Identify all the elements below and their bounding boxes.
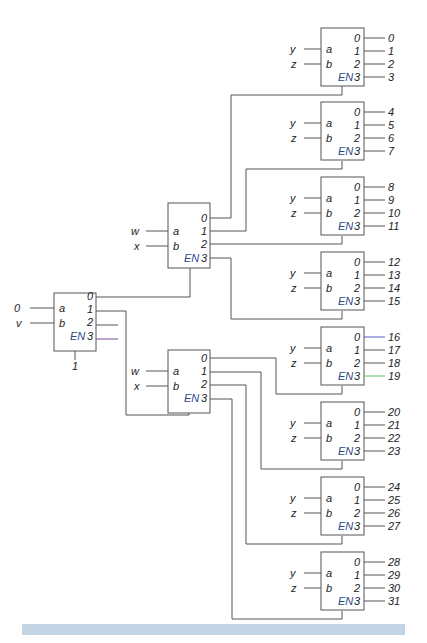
- pin-0-label: 0: [354, 256, 361, 268]
- output-line-label: 19: [388, 370, 400, 382]
- pin-a-label: a: [326, 117, 332, 129]
- pin-b-label: b: [173, 380, 179, 392]
- pin-a-label: a: [326, 492, 332, 504]
- pin-0-label: 0: [354, 331, 361, 343]
- leaf-input-b-signal: z: [290, 357, 297, 369]
- output-line-label: 23: [387, 445, 401, 457]
- leaf-decoder: yzab04152637EN: [289, 102, 395, 160]
- output-line-label: 13: [388, 269, 401, 281]
- leaf-input-a-signal: y: [289, 417, 297, 429]
- pin-a-label: a: [326, 567, 332, 579]
- output-line-label: 3: [388, 71, 395, 83]
- pin-en-label: EN: [184, 252, 199, 264]
- pin-a-label: a: [326, 417, 332, 429]
- pin-2-label: 2: [86, 316, 93, 328]
- output-line-label: 9: [388, 194, 394, 206]
- output-line-label: 14: [388, 282, 400, 294]
- pin-1-label: 1: [354, 269, 360, 281]
- pin-0-label: 0: [354, 481, 361, 493]
- output-line-label: 7: [388, 145, 395, 157]
- pin-a-label: a: [173, 225, 179, 237]
- output-line-label: 1: [388, 45, 394, 57]
- pin-en-label: EN: [338, 595, 353, 607]
- output-line-label: 11: [388, 220, 399, 232]
- pin-en-label: EN: [338, 145, 353, 157]
- pin-a-label: a: [326, 342, 332, 354]
- output-line-label: 27: [387, 520, 401, 532]
- pin-en-label: EN: [338, 295, 353, 307]
- pin-en-label: EN: [338, 520, 353, 532]
- leaf-decoder: yzab0819210311EN: [289, 177, 401, 235]
- pin-1-label: 1: [354, 45, 360, 57]
- output-line-label: 15: [388, 295, 401, 307]
- output-line-label: 21: [387, 419, 400, 431]
- pin-b-label: b: [326, 132, 332, 144]
- pin-2-label: 2: [353, 282, 360, 294]
- bottom-bar: [22, 624, 405, 635]
- mid-input-a-signal: w: [131, 225, 140, 237]
- pin-2-label: 2: [353, 132, 360, 144]
- leaf-decoder: yzab016117218319EN: [289, 327, 401, 385]
- pin-1-label: 1: [87, 303, 93, 315]
- leaf-decoder: yzab028129230331EN: [289, 552, 401, 610]
- decoder-tree-diagram: 0 v a b 0 1 2 EN 3 1 w x a b 0 1 2 EN 3: [0, 0, 427, 643]
- pin-a-label: a: [326, 192, 332, 204]
- pin-en-label: EN: [338, 220, 353, 232]
- output-line-label: 30: [388, 582, 401, 594]
- pin-b-label: b: [326, 58, 332, 70]
- pin-b-label: b: [326, 357, 332, 369]
- leaf-input-b-signal: z: [290, 432, 297, 444]
- output-line-label: 28: [387, 556, 401, 568]
- pin-b-label: b: [326, 207, 332, 219]
- root-input-b-signal: v: [16, 317, 23, 329]
- leaf-decoder: yzab00112233EN: [289, 28, 395, 86]
- pin-2-label: 2: [353, 507, 360, 519]
- pin-1-label: 1: [201, 365, 207, 377]
- pin-b-label: b: [59, 317, 65, 329]
- pin-0-label: 0: [201, 212, 208, 224]
- pin-b-label: b: [326, 432, 332, 444]
- pin-3-label: 3: [354, 145, 361, 157]
- pin-en-label: EN: [70, 330, 85, 342]
- root-input-a-signal: 0: [14, 302, 21, 314]
- pin-a-label: a: [326, 43, 332, 55]
- pin-3-label: 3: [354, 220, 361, 232]
- pin-0-label: 0: [354, 32, 361, 44]
- pin-3-label: 3: [201, 252, 208, 264]
- leaf-input-a-signal: y: [289, 192, 297, 204]
- pin-0-label: 0: [87, 290, 94, 302]
- output-line-label: 31: [388, 595, 400, 607]
- leaf-input-b-signal: z: [290, 58, 297, 70]
- leaf-input-b-signal: z: [290, 132, 297, 144]
- pin-1-label: 1: [354, 194, 360, 206]
- mid-input-a-signal: w: [131, 365, 140, 377]
- pin-b-label: b: [326, 507, 332, 519]
- output-line-label: 24: [387, 481, 400, 493]
- pin-1-label: 1: [354, 569, 360, 581]
- pin-en-label: EN: [338, 445, 353, 457]
- pin-b-label: b: [326, 282, 332, 294]
- output-line-label: 29: [387, 569, 400, 581]
- pin-a-label: a: [59, 302, 65, 314]
- pin-0-label: 0: [354, 181, 361, 193]
- output-line-label: 8: [388, 181, 395, 193]
- pin-0-label: 0: [354, 106, 361, 118]
- mid-decoder-upper: w x a b 0 1 2 EN 3: [131, 86, 342, 319]
- leaf-input-b-signal: z: [290, 582, 297, 594]
- leaf-decoder: yzab020121222323EN: [289, 402, 401, 460]
- pin-2-label: 2: [200, 238, 207, 250]
- pin-a-label: a: [326, 267, 332, 279]
- pin-1-label: 1: [201, 225, 207, 237]
- pin-b-label: b: [173, 240, 179, 252]
- pin-en-label: EN: [338, 370, 353, 382]
- pin-2-label: 2: [353, 357, 360, 369]
- output-line-label: 5: [388, 119, 395, 131]
- pin-3-label: 3: [354, 295, 361, 307]
- mid-input-b-signal: x: [133, 240, 140, 252]
- pin-3-label: 3: [354, 520, 361, 532]
- leaf-decoder: yzab012113214315EN: [289, 252, 401, 310]
- pin-1-label: 1: [354, 119, 360, 131]
- output-line-label: 25: [387, 494, 401, 506]
- leaf-input-a-signal: y: [289, 267, 297, 279]
- mid-input-b-signal: x: [133, 380, 140, 392]
